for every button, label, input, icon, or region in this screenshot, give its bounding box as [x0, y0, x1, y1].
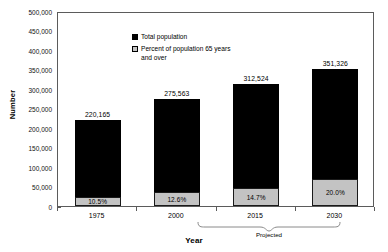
bar-percent-label: 10.5% — [88, 198, 107, 205]
legend-label-total-population: Total population — [141, 33, 187, 41]
y-axis-tick-label: 450,000 — [29, 27, 53, 36]
bar-percent-label: 20.0% — [326, 189, 345, 196]
x-axis-tick-mark — [295, 207, 296, 211]
bar-value-label: 312,524 — [221, 75, 291, 82]
bar-segment-percent-65-over[interactable]: 14.7% — [233, 188, 279, 206]
bar-value-label: 275,563 — [142, 90, 212, 97]
bar-value-label: 220,165 — [63, 111, 133, 118]
bar-1975[interactable]: 10.5%220,165 — [75, 120, 121, 206]
bar-2015[interactable]: 14.7%312,524 — [233, 84, 279, 206]
legend-swatch-black-square — [132, 34, 138, 40]
bar-segment-total-population[interactable] — [154, 99, 200, 206]
x-axis-tick-label-2030: 2030 — [304, 212, 364, 219]
bar-2030[interactable]: 20.0%351,326 — [312, 69, 358, 206]
bar-segment-percent-65-over[interactable]: 20.0% — [312, 179, 358, 206]
plot-area: Total population Percent of population 6… — [57, 12, 374, 207]
legend-item-percent-65-over: Percent of population 65 years and over — [132, 45, 242, 62]
x-axis-tick-mark — [136, 207, 137, 211]
bar-segment-percent-65-over[interactable]: 12.6% — [154, 192, 200, 206]
x-axis-tick-label-2000: 2000 — [146, 212, 206, 219]
x-axis-tick-mark — [216, 207, 217, 211]
y-axis-tick-label: 500,000 — [29, 8, 53, 17]
y-axis-tick-label: 50,000 — [32, 183, 52, 192]
legend-swatch-gray-square — [132, 46, 138, 52]
y-axis-tick-label: 250,000 — [29, 105, 53, 114]
bar-2000[interactable]: 12.6%275,563 — [154, 99, 200, 206]
bar-value-label: 351,326 — [300, 60, 370, 67]
bar-segment-total-population[interactable] — [75, 120, 121, 206]
population-bar-chart: Number 500,000450,000400,000350,000300,0… — [0, 0, 388, 252]
x-axis-tick-label-2015: 2015 — [225, 212, 285, 219]
y-axis-title: Number — [8, 70, 17, 140]
bar-percent-label: 14.7% — [247, 194, 266, 201]
y-axis-tick-label: 300,000 — [29, 86, 53, 95]
y-axis-tick-label: 100,000 — [29, 164, 53, 173]
y-axis-tick-label: 200,000 — [29, 125, 53, 134]
bar-percent-label: 12.6% — [167, 196, 186, 203]
bar-segment-percent-65-over[interactable]: 10.5% — [75, 197, 121, 206]
x-axis-tick-mark — [374, 207, 375, 211]
x-axis-tick-label-1975: 1975 — [67, 212, 127, 219]
legend-label-percent-65-over: Percent of population 65 years and over — [141, 45, 242, 62]
y-axis-tick-label: 0 — [48, 203, 52, 212]
legend-item-total-population: Total population — [132, 33, 242, 41]
x-axis-tick-mark — [57, 207, 58, 211]
y-axis-tick-label: 150,000 — [29, 144, 53, 153]
y-axis-tick-label: 350,000 — [29, 66, 53, 75]
chart-legend: Total population Percent of population 6… — [132, 33, 242, 66]
y-axis-tick-label: 400,000 — [29, 47, 53, 56]
x-axis-title: Year — [0, 236, 388, 245]
